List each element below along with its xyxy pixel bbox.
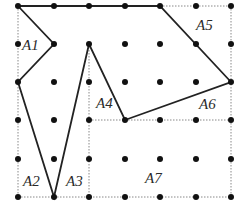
grid-dot — [228, 41, 234, 47]
grid-dot — [228, 3, 234, 9]
grid-dot — [15, 3, 21, 9]
grid-dot — [86, 194, 92, 200]
grid-dot — [193, 194, 199, 200]
label-a2: A2 — [22, 173, 40, 189]
label-a4: A4 — [95, 95, 113, 111]
grid-dot — [122, 3, 128, 9]
grid-dot — [51, 156, 57, 162]
grid-dot — [51, 79, 57, 85]
grid-dot — [51, 41, 57, 47]
grid-dot — [15, 41, 21, 47]
grid-dot — [51, 3, 57, 9]
grid-dot — [15, 156, 21, 162]
grid-dot — [193, 41, 199, 47]
grid-dot — [86, 156, 92, 162]
label-a3: A3 — [65, 173, 83, 189]
region-labels: A1 A5 A4 A6 A2 A3 A7 — [21, 17, 216, 189]
grid-dot — [157, 79, 163, 85]
grid-dot — [157, 194, 163, 200]
grid-dot — [86, 117, 92, 123]
grid-dot — [15, 117, 21, 123]
grid-dot — [122, 79, 128, 85]
grid-dot — [86, 3, 92, 9]
grid-dot — [193, 117, 199, 123]
grid-dot — [51, 194, 57, 200]
grid-dot — [157, 3, 163, 9]
grid-dot — [15, 194, 21, 200]
geoboard-diagram: A1 A5 A4 A6 A2 A3 A7 — [0, 0, 241, 205]
grid-dot — [86, 41, 92, 47]
label-a6: A6 — [198, 96, 216, 112]
grid-dot — [51, 117, 57, 123]
grid-dot — [122, 117, 128, 123]
grid-dot — [157, 117, 163, 123]
grid-dot — [122, 156, 128, 162]
grid-dot — [86, 79, 92, 85]
grid-dot — [193, 156, 199, 162]
label-a5: A5 — [195, 17, 213, 33]
label-a1: A1 — [21, 37, 39, 53]
grid-dot — [15, 79, 21, 85]
grid-dot — [228, 79, 234, 85]
grid-dot — [228, 156, 234, 162]
grid-dot — [122, 41, 128, 47]
grid-dot — [228, 194, 234, 200]
grid-dot — [157, 41, 163, 47]
label-a7: A7 — [144, 170, 163, 186]
grid-dot — [157, 156, 163, 162]
grid-dot — [228, 117, 234, 123]
grid-dot — [122, 194, 128, 200]
grid-dot — [193, 3, 199, 9]
grid-dot — [193, 79, 199, 85]
